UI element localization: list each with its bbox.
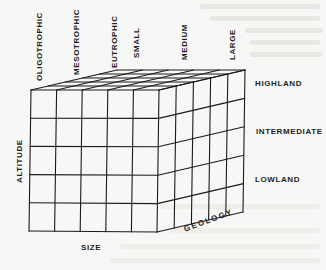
depth-level-mesotrophic: MESOTROPHIC bbox=[73, 9, 81, 75]
altitude-level-lowland: LOWLAND bbox=[255, 176, 300, 184]
size-level-large: LARGE bbox=[229, 29, 237, 60]
axis-title-size: SIZE bbox=[81, 244, 101, 252]
axis-title-altitude: ALTITUDE bbox=[16, 139, 24, 183]
altitude-level-highland: HIGHLAND bbox=[255, 80, 302, 88]
depth-level-eutrophic: EUTROPHIC bbox=[111, 15, 119, 68]
size-level-medium: MEDIUM bbox=[181, 24, 189, 60]
depth-level-oligotrophic: OLIGOTROPHIC bbox=[36, 12, 44, 81]
size-level-small: SMALL bbox=[133, 27, 141, 58]
altitude-level-intermediate: INTERMEDIATE bbox=[256, 128, 323, 136]
